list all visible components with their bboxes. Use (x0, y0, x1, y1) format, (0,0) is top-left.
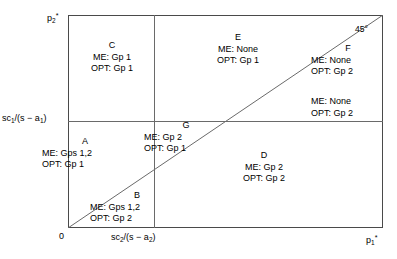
region-F-lower-opt: OPT: Gp 2 (311, 108, 385, 120)
x-axis-threshold-label: sc2/(s − a2) (111, 232, 155, 245)
region-label-B: B ME: Gps 1,2 OPT: Gp 2 (90, 190, 184, 225)
region-F-lower-me: ME: None (311, 96, 385, 108)
region-label-F-lower: ME: None OPT: Gp 2 (311, 96, 385, 119)
region-D-opt: OPT: Gp 2 (222, 173, 306, 185)
region-C-tag: C (72, 40, 152, 52)
region-F-tag: F (311, 43, 385, 55)
region-label-D: D ME: Gp 2 OPT: Gp 2 (222, 150, 306, 185)
y-threshold-rest: /(s − a (15, 113, 40, 123)
region-D-me: ME: Gp 2 (222, 162, 306, 174)
region-A-tag: A (42, 136, 128, 148)
region-C-opt: OPT: Gp 1 (72, 63, 152, 75)
x-threshold-base: sc (111, 232, 120, 242)
x-axis-label: p1* (366, 232, 377, 248)
region-label-E: E ME: None OPT: Gp 1 (190, 32, 286, 67)
y-axis-label-superscript: * (56, 11, 59, 20)
x-axis-label-superscript: * (375, 233, 378, 242)
region-G-tag: G (144, 120, 228, 132)
y-axis-threshold-label: sc1/(s − a1) (2, 113, 46, 126)
region-G-me: ME: Gp 2 (144, 132, 228, 144)
region-A-me: ME: Gps 1,2 (42, 148, 128, 160)
region-F-me: ME: None (311, 55, 385, 67)
region-label-F: F ME: None OPT: Gp 2 (311, 43, 385, 78)
y-threshold-tail: ) (43, 113, 46, 123)
region-B-tag: B (90, 190, 184, 202)
diagonal-angle-label: 45° (355, 24, 368, 35)
region-B-me: ME: Gps 1,2 (90, 202, 184, 214)
region-E-tag: E (190, 32, 286, 44)
origin-label: 0 (59, 231, 64, 242)
region-A-opt: OPT: Gp 1 (42, 159, 128, 171)
region-G-opt: OPT: Gp 1 (144, 143, 228, 155)
region-label-C: C ME: Gp 1 OPT: Gp 1 (72, 40, 152, 75)
region-F-opt: OPT: Gp 2 (311, 66, 385, 78)
y-threshold-base: sc (2, 113, 11, 123)
region-E-me: ME: None (190, 44, 286, 56)
region-C-me: ME: Gp 1 (72, 52, 152, 64)
region-D-tag: D (222, 150, 306, 162)
x-threshold-rest: /(s − a (124, 232, 149, 242)
region-label-A: A ME: Gps 1,2 OPT: Gp 1 (42, 136, 128, 171)
region-E-opt: OPT: Gp 1 (190, 55, 286, 67)
x-threshold-tail: ) (152, 232, 155, 242)
region-partition-diagram: p2* sc1/(s − a1) 0 sc2/(s − a2) p1* 45° … (0, 0, 397, 259)
region-label-G: G ME: Gp 2 OPT: Gp 1 (144, 120, 228, 155)
y-axis-label: p2* (47, 10, 58, 26)
region-B-opt: OPT: Gp 2 (90, 213, 184, 225)
